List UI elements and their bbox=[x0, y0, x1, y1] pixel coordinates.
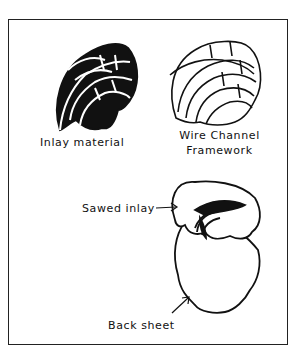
sawed-inlay-assembly-icon bbox=[172, 181, 260, 312]
label-sawed-inlay: Sawed inlay bbox=[82, 203, 155, 215]
label-framework: Framework bbox=[172, 145, 267, 157]
inlay-material-shell-icon bbox=[57, 44, 137, 130]
label-wire-channel: Wire Channel bbox=[172, 130, 267, 142]
figure-illustration bbox=[0, 0, 300, 362]
label-inlay-material: Inlay material bbox=[40, 137, 124, 149]
label-back-sheet: Back sheet bbox=[108, 320, 175, 332]
wire-channel-framework-icon bbox=[170, 41, 261, 125]
